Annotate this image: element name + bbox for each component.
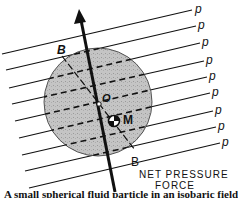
label-b-bottom: B: [131, 155, 139, 169]
pressure-label: p: [201, 35, 209, 49]
pressure-label: p: [205, 53, 213, 67]
pressure-label: p: [197, 18, 205, 32]
pressure-label: p: [217, 119, 225, 133]
isobar-line-1: [2, 10, 192, 54]
label-o: O: [102, 92, 111, 104]
label-m: M: [123, 113, 133, 127]
label-b-top: B: [57, 43, 66, 57]
pressure-label: p: [221, 135, 229, 149]
figure-caption: A small spherical fluid particle in an i…: [0, 187, 238, 198]
center-point-o: [97, 102, 101, 106]
center-of-mass-icon: [109, 116, 120, 127]
pressure-label: p: [194, 2, 202, 16]
pressure-labels: p p p p p p p p p: [194, 2, 229, 149]
pressure-label: p: [214, 103, 222, 117]
pressure-field-diagram: B O M B p p p p p p p p p NET PRESSURE F…: [0, 0, 238, 198]
arrowhead-icon: [74, 9, 86, 24]
force-label-line1: NET PRESSURE: [139, 169, 229, 180]
pressure-label: p: [208, 69, 216, 83]
pressure-label: p: [211, 85, 219, 99]
diagram-canvas: B O M B p p p p p p p p p NET PRESSURE F…: [0, 0, 238, 198]
